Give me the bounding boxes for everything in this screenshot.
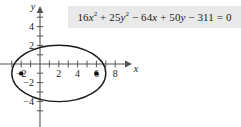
y-ticklabel-neg2: −2 — [23, 77, 34, 88]
equation-rhs: 0 — [226, 11, 232, 23]
y-axis-arrow — [37, 6, 44, 13]
x-ticklabel-4: 4 — [75, 68, 80, 79]
equation-term-4: 50y — [169, 11, 185, 23]
ellipse-graph-figure: 16x2 + 25y2 − 64x + 50y − 311 = 0 — [0, 0, 241, 127]
y-ticklabel-4: 4 — [29, 21, 34, 32]
x-axis — [0, 61, 132, 68]
y-axis — [37, 6, 44, 127]
equation-label: 16x2 + 25y2 − 64x + 50y − 311 = 0 — [68, 6, 241, 28]
equation-term-2: 25y2 — [109, 11, 129, 23]
equation-equals: = — [214, 11, 226, 23]
equation-term-5: 311 — [198, 11, 214, 23]
x-axis-arrow — [125, 61, 132, 68]
equation-op-3: + — [157, 11, 169, 23]
x-axis-label: x — [133, 63, 139, 74]
equation-op-4: − — [185, 11, 197, 23]
y-axis-label: y — [30, 1, 36, 12]
x-ticklabel-2: 2 — [56, 68, 61, 79]
equation-term-1: 16x2 — [77, 11, 97, 23]
equation-term-3: 64x — [141, 11, 157, 23]
y-ticklabel-2: 2 — [29, 40, 34, 51]
y-ticklabel-neg4: −4 — [23, 96, 34, 107]
equation-op-2: − — [129, 11, 141, 23]
x-ticklabel-8: 8 — [113, 68, 118, 79]
x-ticklabel-6: 6 — [94, 68, 99, 79]
equation-op-1: + — [97, 11, 109, 23]
